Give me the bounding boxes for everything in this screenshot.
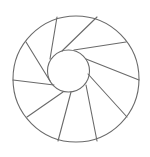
spoke-line-7 xyxy=(88,74,127,117)
spoke-lines xyxy=(13,17,139,141)
outer-circle xyxy=(13,16,139,142)
spoke-line-6 xyxy=(86,85,97,141)
spoke-line-1 xyxy=(50,17,57,59)
spoke-line-9 xyxy=(74,42,126,50)
spoke-line-2 xyxy=(26,42,50,81)
spoke-line-4 xyxy=(27,92,63,117)
spoke-line-8 xyxy=(86,59,139,80)
shutter-diagram xyxy=(0,0,150,157)
diagram-svg xyxy=(0,0,150,157)
spoke-line-10 xyxy=(62,17,97,51)
inner-circle xyxy=(48,50,90,92)
spoke-line-3 xyxy=(13,80,54,85)
spoke-line-5 xyxy=(58,92,71,141)
